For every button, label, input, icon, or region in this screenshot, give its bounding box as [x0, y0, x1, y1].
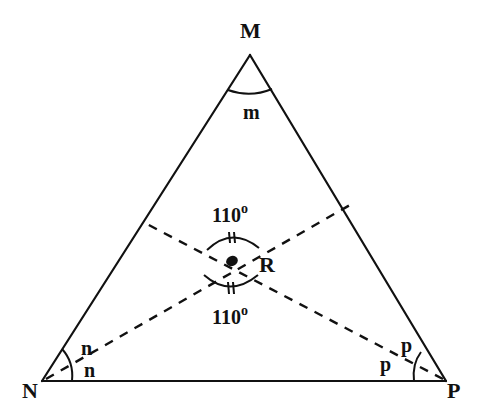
vertex-label-N: N [22, 378, 38, 403]
angle-arc-M [228, 89, 272, 94]
angle-arc-R-top [207, 237, 259, 250]
angle-label-n-upper: n [81, 337, 92, 359]
angle-R-top-value: 110o [212, 201, 248, 226]
angle-label-m: m [243, 101, 260, 123]
angle-R-bottom-value: 110o [212, 303, 248, 328]
angle-label-p-upper: p [401, 334, 412, 357]
vertex-label-P: P [447, 378, 460, 403]
side-MP [250, 55, 446, 381]
angle-label-n-lower: n [84, 359, 95, 381]
angle-arc-N [62, 349, 72, 381]
angle-label-p-lower: p [380, 353, 391, 376]
vertex-label-M: M [240, 18, 261, 43]
triangle-diagram: M N P R m n n p p 110o 110o [0, 0, 491, 404]
intersection-label-R: R [259, 252, 276, 277]
angle-arc-P [414, 352, 421, 381]
